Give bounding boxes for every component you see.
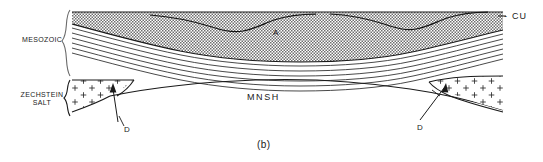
mesozoic-brace [62, 10, 70, 76]
label-diapir-d-right: D [417, 123, 423, 132]
cross-section-drawing [0, 0, 543, 162]
label-cu: - CU [504, 11, 527, 21]
label-mnsh: MNSH [247, 92, 280, 102]
label-zechstein-salt: ZECHSTEIN SALT [16, 91, 68, 107]
geological-cross-section-figure: MESOZOIC ZECHSTEIN SALT MNSH - CU A D D … [0, 0, 543, 162]
figure-caption: (b) [257, 139, 270, 151]
salt-body-left [68, 76, 140, 118]
diapir-arrow-right [420, 83, 448, 120]
label-diapir-d-left: D [124, 125, 130, 134]
label-horizon-a: A [273, 28, 278, 37]
label-mesozoic: MESOZOIC [22, 36, 62, 44]
